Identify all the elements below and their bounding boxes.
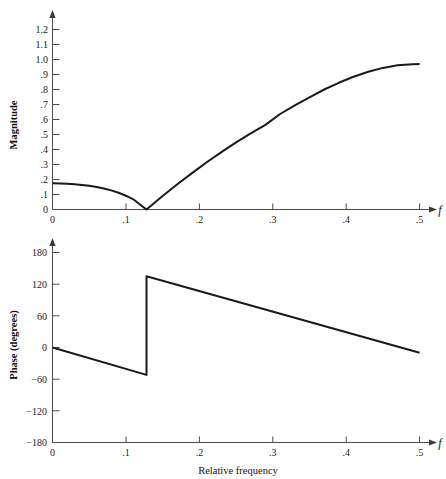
magnitude-ytick-label: .8: [41, 84, 49, 95]
phase-xtick-label: 0: [50, 447, 55, 458]
magnitude-ytick-label: 0: [43, 204, 48, 215]
phase-ytick-label: 120: [32, 279, 47, 290]
phase-x-axis-symbol: f: [438, 436, 443, 450]
phase-xtick-label: .3: [269, 447, 277, 458]
magnitude-ytick-label: .3: [41, 159, 49, 170]
phase-xtick-label: .4: [342, 447, 350, 458]
phase-ytick-label: 180: [32, 247, 47, 258]
phase-ytick-label: 60: [37, 311, 47, 322]
magnitude-ytick-label: 1.0: [36, 54, 49, 65]
magnitude-xtick-label: .5: [416, 214, 424, 225]
magnitude-ytick-label: .9: [41, 69, 49, 80]
phase-xtick-label: .2: [196, 447, 204, 458]
phase-xtick-label: .1: [122, 447, 130, 458]
phase-axis-title: Phase (degrees): [8, 310, 20, 380]
magnitude-y-ticks: [53, 30, 60, 195]
magnitude-xtick-label: .1: [122, 214, 130, 225]
magnitude-xtick-label: 0: [50, 214, 55, 225]
magnitude-ytick-label: 1.2: [36, 24, 49, 35]
magnitude-ytick-label: .2: [41, 174, 49, 185]
phase-x-ticks: [53, 437, 420, 443]
phase-ytick-label: −180: [26, 437, 47, 448]
phase-ytick-label: −60: [31, 374, 47, 385]
phase-xtick-label: .5: [416, 447, 424, 458]
magnitude-ytick-label: .7: [41, 99, 49, 110]
magnitude-ytick-label: .1: [41, 189, 49, 200]
frequency-response-figure: 1.2 1.1 1.0 .9 .8 .7 .6 .5 .4 .3 .2 .1 0: [0, 0, 446, 479]
magnitude-panel: 1.2 1.1 1.0 .9 .8 .7 .6 .5 .4 .3 .2 .1 0: [0, 0, 446, 232]
relative-frequency-caption: Relative frequency: [198, 465, 278, 476]
phase-curve: [53, 276, 420, 375]
magnitude-xtick-label: .2: [196, 214, 204, 225]
magnitude-xtick-label: .3: [269, 214, 277, 225]
magnitude-y-axis-arrow: [49, 10, 55, 18]
phase-ytick-label: −120: [26, 406, 47, 417]
magnitude-xtick-label: .4: [342, 214, 350, 225]
phase-y-axis-arrow: [49, 238, 55, 246]
magnitude-ytick-label: .4: [41, 144, 49, 155]
magnitude-ytick-label: .6: [41, 114, 49, 125]
phase-panel: 180 120 60 0 −60 −120 −180 0 .1 .2 .3 .4…: [0, 232, 446, 479]
magnitude-x-axis-symbol: f: [438, 203, 443, 217]
magnitude-axis-title: Magnitude: [8, 100, 19, 149]
phase-y-ticks: [53, 253, 60, 411]
magnitude-ytick-label: 1.1: [36, 39, 49, 50]
magnitude-ytick-label: .5: [41, 129, 49, 140]
magnitude-curve-trace: [53, 64, 420, 210]
phase-x-axis-arrow: [429, 439, 437, 445]
magnitude-plot-svg: 1.2 1.1 1.0 .9 .8 .7 .6 .5 .4 .3 .2 .1 0: [0, 0, 446, 232]
magnitude-x-axis-arrow: [429, 206, 437, 212]
phase-ytick-label: 0: [42, 342, 47, 353]
phase-plot-svg: 180 120 60 0 −60 −120 −180 0 .1 .2 .3 .4…: [0, 232, 446, 479]
magnitude-x-ticks: [53, 204, 420, 210]
